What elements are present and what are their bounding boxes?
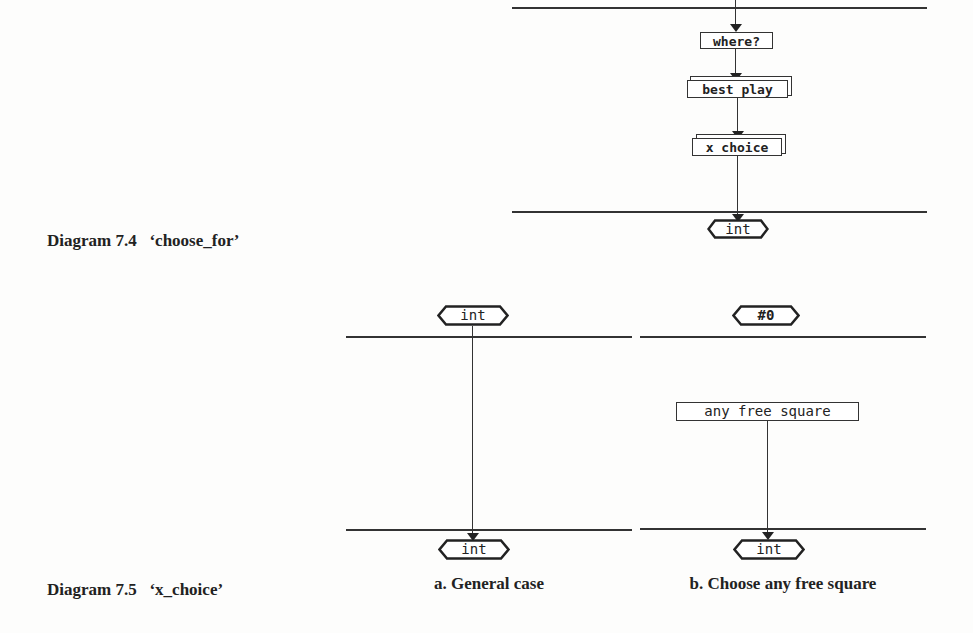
output-type-int: int bbox=[733, 539, 805, 560]
type-label: int bbox=[733, 539, 805, 560]
input-bar bbox=[512, 7, 927, 9]
node-any-free-square: any free square bbox=[676, 402, 859, 421]
caption-diagram-7-4: Diagram 7.4 ‘choose_for’ bbox=[47, 231, 239, 251]
output-bar bbox=[346, 529, 632, 531]
node-best-play: best play bbox=[687, 80, 788, 98]
connector bbox=[737, 156, 738, 218]
panel-label-a: a. General case bbox=[389, 574, 589, 594]
connector bbox=[737, 98, 738, 134]
node-where: where? bbox=[700, 32, 773, 49]
type-label: int bbox=[437, 305, 509, 326]
output-bar bbox=[512, 211, 927, 213]
input-bar bbox=[640, 336, 926, 338]
connector bbox=[735, 0, 736, 27]
node-x-choice: x choice bbox=[692, 138, 782, 156]
input-type-int: int bbox=[437, 305, 509, 326]
connector bbox=[472, 326, 473, 538]
input-constant-0: #0 bbox=[732, 305, 800, 326]
arrow-icon bbox=[730, 24, 742, 32]
connector bbox=[735, 49, 736, 76]
connector bbox=[767, 421, 768, 538]
output-type-int: int bbox=[438, 539, 510, 560]
caption-diagram-7-5: Diagram 7.5 ‘x_choice’ bbox=[47, 580, 223, 600]
input-bar bbox=[346, 336, 632, 338]
type-label: int bbox=[438, 539, 510, 560]
type-label: int bbox=[707, 219, 769, 239]
output-bar bbox=[640, 528, 926, 530]
output-type-int: int bbox=[707, 219, 769, 239]
constant-label: #0 bbox=[732, 305, 800, 326]
panel-label-b: b. Choose any free square bbox=[658, 574, 908, 594]
